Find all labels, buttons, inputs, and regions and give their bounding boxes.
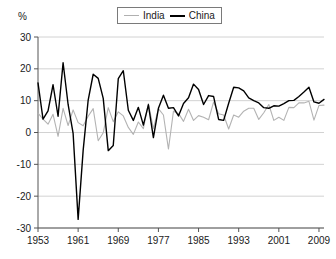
y-tick-label: 30 [20, 32, 32, 43]
y-tick-label: 10 [20, 95, 32, 106]
y-tick-label: 20 [20, 63, 32, 74]
growth-rate-line-chart: % India China 3020100-10-20-30 195319611… [0, 0, 336, 259]
x-tick-label: 1977 [147, 235, 170, 246]
y-tick-label: -10 [17, 159, 32, 170]
x-tick-label: 1985 [187, 235, 210, 246]
x-axis-ticks-group [38, 228, 319, 232]
y-axis-labels-group: 3020100-10-20-30 [17, 32, 32, 234]
y-axis-ticks-group [34, 37, 38, 228]
x-axis-labels-group: 19531961196919771985199320012009 [27, 235, 331, 246]
x-tick-label: 1961 [67, 235, 90, 246]
x-tick-label: 1969 [107, 235, 130, 246]
y-tick-label: -30 [17, 223, 32, 234]
x-tick-label: 2001 [268, 235, 291, 246]
x-tick-label: 2009 [308, 235, 331, 246]
plot-area: 3020100-10-20-30 19531961196919771985199… [0, 0, 336, 259]
x-tick-label: 1953 [27, 235, 50, 246]
y-tick-label: 0 [25, 127, 31, 138]
y-tick-label: -20 [17, 191, 32, 202]
gridlines-group [38, 37, 324, 228]
x-tick-label: 1993 [228, 235, 251, 246]
